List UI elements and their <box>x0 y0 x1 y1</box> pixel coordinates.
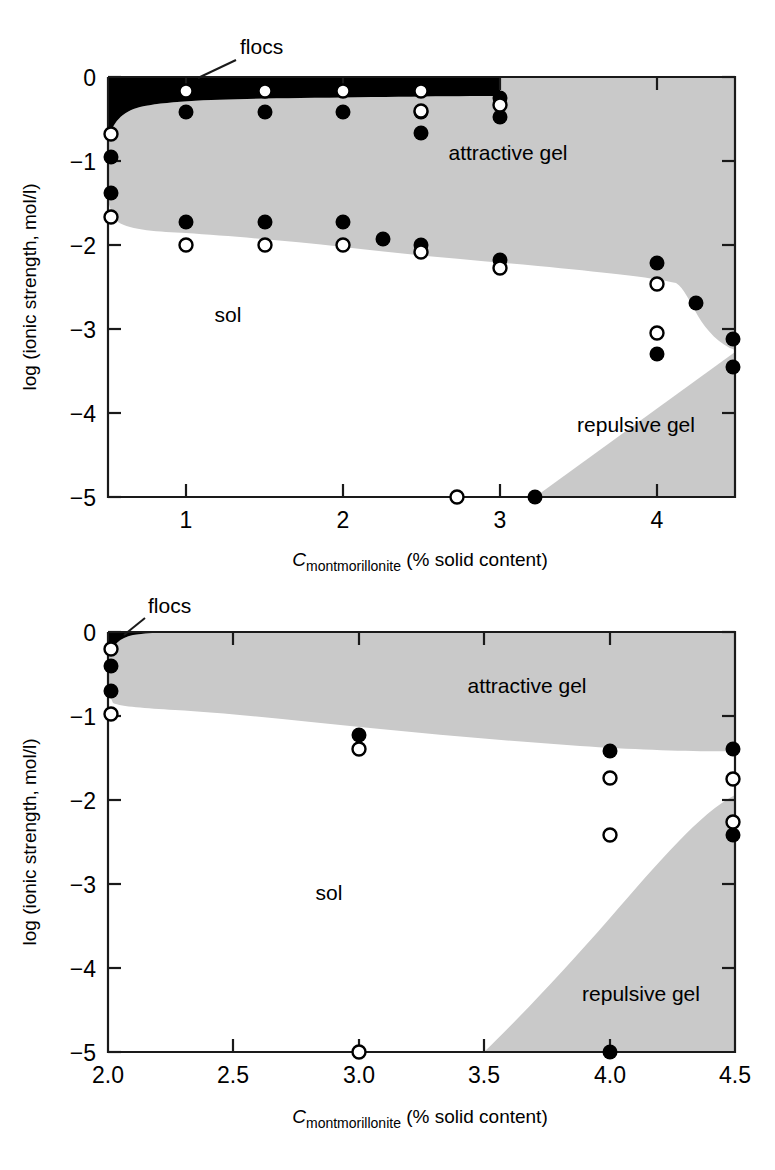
data-point-open <box>415 105 428 118</box>
top-x-axis-title-prefix: C <box>292 549 306 570</box>
top-y-axis-title: log (ionic strength, mol/l) <box>19 184 40 391</box>
bottom-sol-label: sol <box>316 881 343 904</box>
top-flocs-label: flocs <box>240 35 283 58</box>
bottom-xtick-label-3: 3.5 <box>468 1062 500 1088</box>
data-point-filled <box>650 347 665 362</box>
top-xtick-label-4: 4 <box>651 507 664 533</box>
data-point-filled <box>258 215 273 230</box>
data-point-filled <box>726 742 741 757</box>
data-point-filled <box>104 684 119 699</box>
data-point-filled <box>336 105 351 120</box>
top-xtick-label-1: 1 <box>180 507 193 533</box>
data-point-filled <box>650 256 665 271</box>
top-flocs-pointer-line <box>198 60 236 78</box>
data-point-filled <box>104 659 119 674</box>
data-point-open <box>180 85 193 98</box>
data-point-filled <box>352 728 367 743</box>
bottom-x-axis-title-suffix: (% solid content) <box>401 1106 548 1127</box>
top-xtick-label-3: 3 <box>494 507 507 533</box>
bottom-xtick-label-2: 3.0 <box>343 1062 375 1088</box>
data-point-open <box>494 99 507 112</box>
data-point-open <box>105 643 118 656</box>
top-ytick-label-0: 0 <box>83 65 96 91</box>
data-point-open <box>451 491 464 504</box>
data-point-open <box>727 816 740 829</box>
bottom-attractive-gel-label: attractive gel <box>467 674 586 697</box>
top-x-axis-title-sub: montmorillonite <box>306 558 401 574</box>
top-ytick-label-2: −2 <box>70 233 96 259</box>
data-point-filled <box>179 215 194 230</box>
bottom-panel-svg: 0 −1 −2 −3 −4 −5 2.0 2.5 3.0 3.5 4.0 4.5… <box>0 585 775 1170</box>
data-point-open <box>180 239 193 252</box>
bottom-x-axis-title-prefix: C <box>292 1106 306 1127</box>
data-point-filled <box>726 360 741 375</box>
bottom-phase-diagram-panel: 0 −1 −2 −3 −4 −5 2.0 2.5 3.0 3.5 4.0 4.5… <box>0 585 775 1170</box>
data-point-open <box>415 85 428 98</box>
bottom-xtick-label-0: 2.0 <box>92 1062 124 1088</box>
data-point-filled <box>104 150 119 165</box>
phase-diagram-figure: 0 −1 −2 −3 −4 −5 1 2 3 4 log (ionic stre… <box>0 0 775 1170</box>
data-point-open <box>105 128 118 141</box>
top-xtick-label-2: 2 <box>337 507 350 533</box>
top-repulsive-gel-label: repulsive gel <box>577 413 695 436</box>
data-point-open <box>105 708 118 721</box>
bottom-ytick-label-3: −3 <box>70 872 96 898</box>
bottom-xtick-label-4: 4.0 <box>594 1062 626 1088</box>
data-point-filled <box>376 232 391 247</box>
data-point-filled <box>603 1045 618 1060</box>
top-ytick-label-4: −4 <box>70 401 96 427</box>
bottom-xtick-label-5: 4.5 <box>719 1062 751 1088</box>
bottom-x-axis-title-sub: montmorillonite <box>306 1115 401 1131</box>
top-ytick-label-5: −5 <box>70 485 96 511</box>
data-point-filled <box>104 186 119 201</box>
bottom-x-axis-title: Cmontmorillonite (% solid content) <box>292 1106 547 1131</box>
top-phase-diagram-panel: 0 −1 −2 −3 −4 −5 1 2 3 4 log (ionic stre… <box>0 0 775 585</box>
top-sol-label: sol <box>215 303 242 326</box>
data-point-open <box>337 239 350 252</box>
bottom-flocs-label: flocs <box>148 594 191 617</box>
data-point-filled <box>336 215 351 230</box>
data-point-open <box>353 743 366 756</box>
bottom-repulsive-gel-label: repulsive gel <box>582 982 700 1005</box>
top-panel-svg: 0 −1 −2 −3 −4 −5 1 2 3 4 log (ionic stre… <box>0 0 775 585</box>
data-point-filled <box>603 744 618 759</box>
data-point-open <box>727 773 740 786</box>
data-point-filled <box>528 490 543 505</box>
top-x-axis-title-suffix: (% solid content) <box>401 549 548 570</box>
data-point-open <box>494 262 507 275</box>
data-point-open <box>353 1046 366 1059</box>
data-point-open <box>259 239 272 252</box>
data-point-open <box>105 211 118 224</box>
bottom-ytick-label-0: 0 <box>83 620 96 646</box>
top-attractive-gel-label: attractive gel <box>448 141 567 164</box>
top-ytick-label-3: −3 <box>70 317 96 343</box>
top-ytick-label-1: −1 <box>70 149 96 175</box>
top-x-axis-title: Cmontmorillonite (% solid content) <box>292 549 547 574</box>
bottom-ytick-label-2: −2 <box>70 788 96 814</box>
data-point-filled <box>726 828 741 843</box>
bottom-y-axis-title: log (ionic strength, mol/l) <box>19 739 40 946</box>
data-point-filled <box>258 105 273 120</box>
data-point-open <box>651 278 664 291</box>
data-point-filled <box>414 126 429 141</box>
data-point-open <box>604 772 617 785</box>
bottom-ytick-label-1: −1 <box>70 704 96 730</box>
bottom-ytick-label-4: −4 <box>70 956 96 982</box>
data-point-open <box>604 829 617 842</box>
data-point-open <box>415 246 428 259</box>
data-point-filled <box>689 296 704 311</box>
data-point-open <box>651 327 664 340</box>
data-point-filled <box>726 332 741 347</box>
data-point-open <box>259 85 272 98</box>
bottom-xtick-label-1: 2.5 <box>217 1062 249 1088</box>
data-point-filled <box>179 105 194 120</box>
data-point-open <box>337 85 350 98</box>
